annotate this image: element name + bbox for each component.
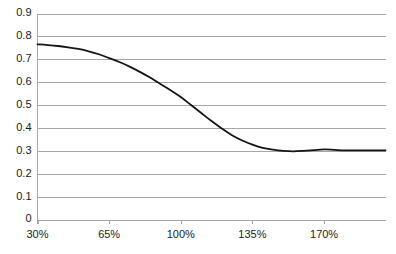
data-series-group xyxy=(38,44,386,151)
y-tick-label-0.1: 0.1 xyxy=(16,190,31,202)
y-tick-label-0.7: 0.7 xyxy=(16,52,31,64)
y-tick-label-0.8: 0.8 xyxy=(16,29,31,41)
chart-container: 00.10.20.30.40.50.60.70.80.9 30%65%100%1… xyxy=(0,0,396,254)
x-tick-label-65pct: 65% xyxy=(98,228,120,240)
y-tick-label-0.3: 0.3 xyxy=(16,144,31,156)
y-tick-label-0.2: 0.2 xyxy=(16,167,31,179)
x-tick-label-135pct: 135% xyxy=(238,228,266,240)
y-tick-label-0.5: 0.5 xyxy=(16,98,31,110)
line-chart: 00.10.20.30.40.50.60.70.80.9 30%65%100%1… xyxy=(0,0,396,254)
x-axis-tick-labels: 30%65%100%135%170% xyxy=(26,228,338,240)
y-tick-label-0.9: 0.9 xyxy=(16,6,31,18)
gridlines xyxy=(38,15,386,221)
data-line-series-1 xyxy=(38,44,386,151)
x-tick-label-170pct: 170% xyxy=(310,228,338,240)
y-axis-tick-labels: 00.10.20.30.40.50.60.70.80.9 xyxy=(16,6,31,224)
y-tick-label-0: 0 xyxy=(25,212,31,224)
y-tick-label-0.6: 0.6 xyxy=(16,75,31,87)
x-tick-label-100pct: 100% xyxy=(167,228,195,240)
x-tick-label-30pct: 30% xyxy=(26,228,48,240)
y-tick-label-0.4: 0.4 xyxy=(16,121,31,133)
